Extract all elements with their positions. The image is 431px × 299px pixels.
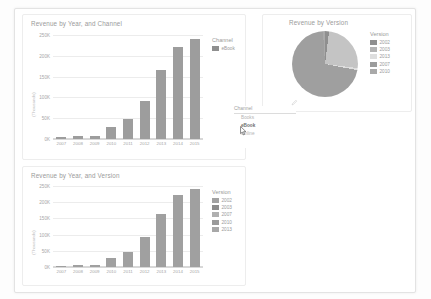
gridline: [53, 35, 203, 36]
legend-swatch: [212, 227, 219, 232]
legend-label: 2007: [222, 212, 232, 217]
legend-swatch: [370, 40, 377, 45]
legend-item[interactable]: 2002: [370, 40, 390, 45]
chart-panel-revenue-by-year-and-version[interactable]: Revenue by Year, and Version (Thousands)…: [22, 166, 246, 286]
y-axis-tick: 150K: [39, 216, 50, 221]
bar[interactable]: [140, 237, 150, 267]
y-axis-label-bottom-left: (Thousands): [31, 230, 36, 255]
legend-item[interactable]: 2013: [212, 227, 232, 232]
y-axis-tick: 50K: [42, 116, 50, 121]
x-axis-tick: 2014: [173, 141, 183, 146]
x-axis-tick: 2013: [156, 141, 166, 146]
plot-area-bottom-left: 0K50K100K150K200K250K2007200820092010201…: [53, 186, 203, 267]
legend-title-channel: Channel: [212, 37, 235, 43]
bar[interactable]: [190, 39, 200, 139]
x-axis-tick: 2008: [73, 269, 83, 274]
pencil-icon[interactable]: [291, 99, 298, 106]
x-axis-tick: 2011: [123, 269, 132, 274]
legend-item[interactable]: 2003: [212, 205, 232, 210]
legend-label: 2002: [380, 40, 390, 45]
y-axis-label-top-left: (Thousands): [31, 92, 36, 117]
y-axis-tick: 200K: [39, 200, 50, 205]
bar[interactable]: [73, 265, 83, 267]
x-axis-tick: 2009: [90, 269, 100, 274]
legend-item[interactable]: 2013: [370, 54, 390, 59]
legend-item[interactable]: eBook: [212, 46, 235, 51]
legend-item[interactable]: 2002: [212, 198, 232, 203]
bar[interactable]: [73, 136, 83, 139]
pie-slices[interactable]: [292, 31, 358, 97]
legend-swatch: [212, 198, 219, 203]
report-page: Revenue by Year, and Channel (Thousands)…: [0, 0, 431, 299]
bar[interactable]: [106, 127, 116, 139]
legend-channel: Channel eBook: [212, 37, 235, 53]
legend-label: 2007: [380, 62, 390, 67]
bar[interactable]: [123, 119, 133, 139]
bar[interactable]: [90, 265, 100, 267]
legend-items-version-bottom: 20022003200720102013: [212, 198, 232, 232]
chart-panel-revenue-by-year-and-channel[interactable]: Revenue by Year, and Channel (Thousands)…: [22, 14, 246, 160]
x-axis-tick: 2010: [106, 269, 116, 274]
legend-swatch: [370, 47, 377, 52]
x-axis-tick: 2015: [190, 141, 200, 146]
legend-title-version-pie: Version: [370, 31, 390, 37]
legend-label: 2010: [380, 69, 390, 74]
legend-swatch: [370, 62, 377, 67]
x-axis-tick: 2010: [106, 141, 116, 146]
x-axis-tick: 2011: [123, 141, 132, 146]
y-axis-tick: 200K: [39, 53, 50, 58]
gridline: [53, 267, 203, 268]
legend-label: 2003: [222, 205, 232, 210]
legend-title-version-bottom: Version: [212, 189, 232, 195]
y-axis-tick: 50K: [42, 248, 50, 253]
mouse-cursor-icon: [240, 126, 247, 136]
plot-area-top-left: 0K50K100K150K200K250K2007200820092010201…: [53, 35, 203, 139]
legend-label: 2003: [380, 47, 390, 52]
y-axis-tick: 150K: [39, 74, 50, 79]
legend-label: 2013: [222, 227, 232, 232]
chart-title-bottom-left: Revenue by Year, and Version: [31, 172, 120, 179]
legend-item[interactable]: 2007: [212, 212, 232, 217]
x-axis-tick: 2007: [56, 269, 66, 274]
chart-panel-revenue-by-version[interactable]: Revenue by Version Version 2002200320132…: [262, 14, 412, 112]
x-axis-tick: 2012: [140, 141, 150, 146]
legend-item[interactable]: 2010: [212, 220, 232, 225]
x-axis-tick: 2013: [156, 269, 166, 274]
bar[interactable]: [173, 195, 183, 267]
legend-label: 2002: [222, 198, 232, 203]
legend-label: eBook: [222, 46, 235, 51]
chart-title-pie: Revenue by Version: [289, 19, 348, 26]
bar[interactable]: [56, 266, 66, 267]
bar[interactable]: [56, 137, 66, 139]
bar[interactable]: [156, 70, 166, 139]
bar[interactable]: [190, 189, 200, 267]
legend-version-pie: Version 20022003201320072010: [370, 31, 390, 76]
y-axis-tick: 0K: [44, 265, 50, 270]
slicer-header-channel: Channel: [234, 106, 296, 114]
y-axis-tick: 0K: [44, 137, 50, 142]
bar[interactable]: [106, 258, 116, 267]
legend-item[interactable]: 2007: [370, 62, 390, 67]
legend-swatch: [370, 69, 377, 74]
legend-items-version-pie: 20022003201320072010: [370, 40, 390, 74]
x-axis-tick: 2007: [56, 141, 66, 146]
bar[interactable]: [123, 252, 133, 267]
y-axis-tick: 250K: [39, 184, 50, 189]
legend-swatch: [212, 212, 219, 217]
gridline: [53, 186, 203, 187]
legend-label: 2013: [380, 54, 390, 59]
bar[interactable]: [90, 136, 100, 139]
bar[interactable]: [173, 47, 183, 139]
x-axis-tick: 2008: [73, 141, 83, 146]
legend-item[interactable]: 2003: [370, 47, 390, 52]
legend-swatch: [212, 46, 219, 51]
bar[interactable]: [156, 214, 166, 267]
x-axis-tick: 2014: [173, 269, 183, 274]
legend-item[interactable]: 2010: [370, 69, 390, 74]
slicer-item-books[interactable]: Books: [234, 114, 296, 122]
chart-title-top-left: Revenue by Year, and Channel: [31, 20, 122, 27]
bar[interactable]: [140, 101, 150, 139]
y-axis-tick: 250K: [39, 33, 50, 38]
y-axis-tick: 100K: [39, 232, 50, 237]
legend-swatch: [370, 54, 377, 59]
